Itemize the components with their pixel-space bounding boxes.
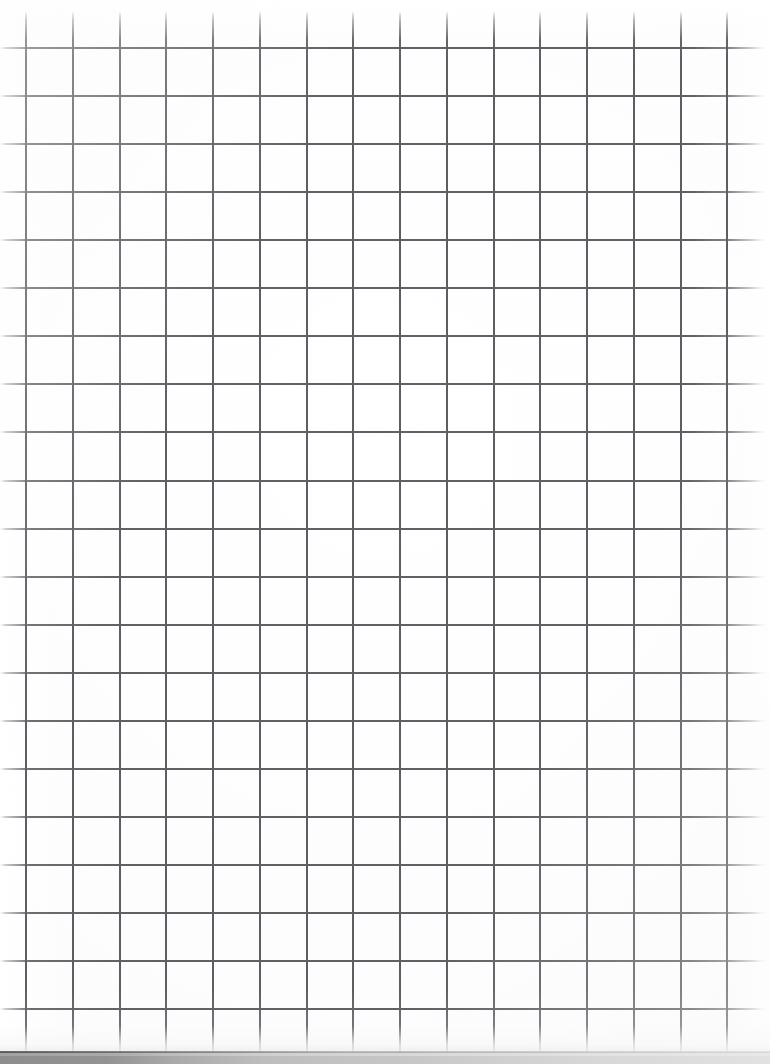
- grid-horizontal-line: [0, 768, 770, 770]
- grid-horizontal-line: [0, 335, 770, 337]
- grid-horizontal-line: [0, 720, 770, 722]
- grid-vertical-line: [306, 0, 308, 1054]
- grid-vertical-line: [259, 0, 261, 1054]
- grid-vertical-line: [72, 0, 74, 1054]
- grid-horizontal-line: [0, 431, 770, 433]
- grid-horizontal-line: [0, 912, 770, 914]
- grid-vertical-line: [165, 0, 167, 1054]
- grid-vertical-line: [726, 0, 728, 1054]
- grid-horizontal-line: [0, 239, 770, 241]
- grid-vertical-line: [633, 0, 635, 1054]
- grid-horizontal-line: [0, 624, 770, 626]
- grid-horizontal-line: [0, 816, 770, 818]
- grid-horizontal-line: [0, 1008, 770, 1010]
- grid-horizontal-line: [0, 576, 770, 578]
- grid-horizontal-line: [0, 143, 770, 145]
- grid-vertical-line: [212, 0, 214, 1054]
- grid-horizontal-line: [0, 191, 770, 193]
- grid-vertical-line: [680, 0, 682, 1054]
- grid-horizontal-line: [0, 47, 770, 49]
- grid-vertical-line: [539, 0, 541, 1054]
- grid-vertical-line: [119, 0, 121, 1054]
- grid-horizontal-line: [0, 480, 770, 482]
- grid-vertical-line: [586, 0, 588, 1054]
- bottom-shadow-band: [0, 1052, 770, 1064]
- grid-horizontal-line: [0, 383, 770, 385]
- grid-vertical-line: [446, 0, 448, 1054]
- grid-horizontal-line: [0, 287, 770, 289]
- grid-horizontal-line: [0, 528, 770, 530]
- grid-vertical-line: [352, 0, 354, 1054]
- grid-horizontal-line: [0, 672, 770, 674]
- grid-horizontal-line: [0, 95, 770, 97]
- grid-vertical-line: [25, 0, 27, 1054]
- grid-vertical-line: [493, 0, 495, 1054]
- paper-sheet: [0, 0, 770, 1064]
- scanned-page: [0, 0, 770, 1064]
- grid-vertical-line: [399, 0, 401, 1054]
- grid-horizontal-line: [0, 960, 770, 962]
- bottom-edge-line: [0, 1051, 770, 1053]
- grid-horizontal-line: [0, 864, 770, 866]
